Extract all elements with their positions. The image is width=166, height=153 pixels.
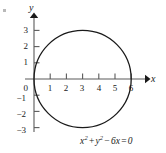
y-tick-label-neg2: −2 (13, 110, 26, 119)
y-tick-label-1: 1 (15, 58, 28, 67)
y-tick-label-neg1: −1 (13, 94, 26, 103)
x-tick-label-3: 3 (77, 84, 87, 93)
equation-term-6x: 6x (111, 136, 120, 146)
x-tick-label-6: 6 (126, 84, 136, 93)
equation-op-minus: − (103, 136, 111, 146)
x-axis-arrowhead (145, 75, 151, 84)
x-tick-label-1: 1 (45, 84, 55, 93)
y-tick-label-2: 2 (15, 42, 28, 51)
equation-op-equals: = (120, 136, 128, 146)
y-tick-label-3: 3 (15, 26, 28, 35)
y-tick-label-0: 0 (15, 84, 28, 93)
equation-rhs: 0 (128, 136, 133, 146)
x-tick-label-4: 4 (94, 84, 104, 93)
y-tick-label-neg3: −3 (13, 126, 26, 135)
y-axis-arrowhead (30, 13, 38, 19)
x-axis-label: x (151, 74, 155, 84)
circle-graph-figure: y x 3 2 1 0 −1 −2 −3 1 2 3 4 5 6 x2+y2−6… (0, 0, 166, 153)
x-tick-label-2: 2 (61, 84, 71, 93)
x-axis-ticks (50, 74, 131, 80)
x-tick-label-5: 5 (110, 84, 120, 93)
y-axis-label: y (29, 3, 33, 13)
equation-caption: x2+y2−6x=0 (80, 134, 133, 146)
